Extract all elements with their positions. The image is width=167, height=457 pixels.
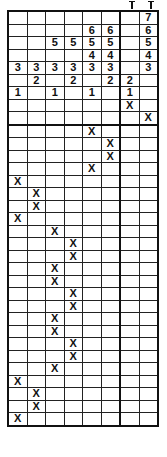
grid-cell[interactable]: [8, 150, 27, 163]
grid-cell[interactable]: [8, 263, 27, 276]
grid-cell[interactable]: 3: [8, 62, 27, 75]
grid-cell[interactable]: [46, 188, 65, 201]
grid-cell[interactable]: [83, 375, 102, 388]
grid-cell[interactable]: [27, 163, 46, 176]
grid-cell[interactable]: [83, 388, 102, 401]
grid-cell[interactable]: [101, 363, 120, 376]
grid-cell[interactable]: [27, 175, 46, 188]
grid-cell[interactable]: 5: [46, 37, 65, 50]
x-mark-cell[interactable]: X: [8, 413, 27, 426]
grid-cell[interactable]: 5: [64, 37, 83, 50]
grid-cell[interactable]: [120, 375, 139, 388]
grid-cell[interactable]: [83, 350, 102, 363]
grid-cell[interactable]: [120, 213, 139, 226]
grid-cell[interactable]: [27, 300, 46, 313]
grid-cell[interactable]: [8, 400, 27, 413]
x-mark-cell[interactable]: X: [27, 400, 46, 413]
x-mark-cell[interactable]: X: [64, 288, 83, 301]
x-mark-cell[interactable]: X: [64, 250, 83, 263]
grid-cell[interactable]: [8, 225, 27, 238]
grid-cell[interactable]: [139, 150, 158, 163]
grid-cell[interactable]: 3: [27, 62, 46, 75]
grid-cell[interactable]: 3: [101, 62, 120, 75]
grid-cell[interactable]: [27, 49, 46, 62]
grid-cell[interactable]: [83, 138, 102, 151]
grid-cell[interactable]: [101, 99, 120, 112]
grid-cell[interactable]: 2: [101, 74, 120, 87]
grid-cell[interactable]: 5: [83, 37, 102, 50]
grid-cell[interactable]: [8, 112, 27, 125]
grid-cell[interactable]: 4: [101, 49, 120, 62]
grid-cell[interactable]: [8, 188, 27, 201]
grid-cell[interactable]: [120, 225, 139, 238]
grid-cell[interactable]: [139, 375, 158, 388]
grid-cell[interactable]: [120, 413, 139, 426]
grid-cell[interactable]: [64, 400, 83, 413]
grid-cell[interactable]: [139, 238, 158, 251]
grid-cell[interactable]: [27, 11, 46, 24]
grid-cell[interactable]: [139, 275, 158, 288]
grid-cell[interactable]: [120, 150, 139, 163]
grid-cell[interactable]: [120, 138, 139, 151]
grid-cell[interactable]: [46, 388, 65, 401]
grid-cell[interactable]: [101, 225, 120, 238]
grid-cell[interactable]: 3: [46, 62, 65, 75]
grid-cell[interactable]: [101, 163, 120, 176]
grid-cell[interactable]: [83, 400, 102, 413]
grid-cell[interactable]: [83, 188, 102, 201]
grid-cell[interactable]: [120, 112, 139, 125]
grid-cell[interactable]: [64, 112, 83, 125]
grid-cell[interactable]: [8, 313, 27, 326]
grid-cell[interactable]: [139, 400, 158, 413]
grid-cell[interactable]: [27, 238, 46, 251]
grid-cell[interactable]: [27, 375, 46, 388]
grid-cell[interactable]: [64, 413, 83, 426]
grid-cell[interactable]: [101, 11, 120, 24]
grid-cell[interactable]: 6: [101, 24, 120, 37]
grid-cell[interactable]: [27, 112, 46, 125]
grid-cell[interactable]: [83, 300, 102, 313]
grid-cell[interactable]: [8, 300, 27, 313]
grid-cell[interactable]: [8, 11, 27, 24]
grid-cell[interactable]: [83, 213, 102, 226]
grid-cell[interactable]: [120, 275, 139, 288]
grid-cell[interactable]: 1: [8, 87, 27, 100]
grid-cell[interactable]: [64, 87, 83, 100]
grid-cell[interactable]: 3: [139, 62, 158, 75]
x-mark-cell[interactable]: X: [27, 388, 46, 401]
grid-cell[interactable]: [101, 200, 120, 213]
grid-cell[interactable]: [101, 313, 120, 326]
grid-cell[interactable]: [139, 350, 158, 363]
grid-cell[interactable]: [27, 37, 46, 50]
grid-cell[interactable]: [8, 288, 27, 301]
grid-cell[interactable]: [64, 225, 83, 238]
grid-cell[interactable]: [83, 225, 102, 238]
grid-cell[interactable]: [139, 325, 158, 338]
grid-cell[interactable]: [83, 74, 102, 87]
grid-cell[interactable]: [83, 325, 102, 338]
grid-cell[interactable]: [83, 288, 102, 301]
grid-cell[interactable]: [8, 275, 27, 288]
grid-cell[interactable]: [46, 112, 65, 125]
grid-cell[interactable]: [101, 238, 120, 251]
grid-cell[interactable]: [46, 49, 65, 62]
grid-cell[interactable]: [101, 300, 120, 313]
grid-cell[interactable]: [46, 375, 65, 388]
grid-cell[interactable]: [64, 125, 83, 138]
grid-cell[interactable]: [64, 325, 83, 338]
grid-cell[interactable]: [46, 213, 65, 226]
grid-cell[interactable]: [139, 288, 158, 301]
grid-cell[interactable]: X: [120, 99, 139, 112]
x-mark-cell[interactable]: X: [8, 175, 27, 188]
grid-cell[interactable]: [8, 238, 27, 251]
x-mark-cell[interactable]: X: [8, 213, 27, 226]
grid-cell[interactable]: [83, 238, 102, 251]
grid-cell[interactable]: [46, 300, 65, 313]
grid-cell[interactable]: [120, 250, 139, 263]
grid-cell[interactable]: [120, 163, 139, 176]
grid-cell[interactable]: [46, 125, 65, 138]
x-mark-cell[interactable]: X: [46, 263, 65, 276]
grid-cell[interactable]: [139, 363, 158, 376]
grid-cell[interactable]: [120, 363, 139, 376]
grid-cell[interactable]: [27, 24, 46, 37]
